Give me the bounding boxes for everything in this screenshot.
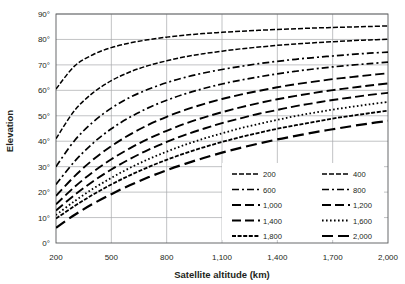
y-tick-label: 60° [38,86,50,95]
x-tick-label: 1,400 [267,253,288,262]
legend-label-800: 800 [353,186,366,195]
y-tick-label: 30° [38,163,50,172]
x-axis-tick-labels: 2005008001,1001,4001,7002,000 [49,253,398,262]
legend-label-2000: 2,000 [353,232,372,241]
y-tick-label: 50° [38,112,50,121]
x-tick-label: 2,000 [378,253,399,262]
y-tick-label: 70° [38,61,50,70]
chart-legend: 2006001,0001,4001,8004008001,2001,6002,0… [222,163,384,241]
y-axis-title: Elevation [4,110,15,152]
x-tick-label: 200 [49,253,63,262]
x-tick-label: 500 [105,253,119,262]
legend-label-1800: 1,800 [263,232,282,241]
chart-canvas: 2005008001,1001,4001,7002,000 0°10°20°30… [0,0,405,284]
x-tick-label: 800 [160,253,174,262]
x-tick-label: 1,100 [212,253,233,262]
legend-label-1200: 1,200 [353,201,372,210]
legend-label-200: 200 [263,170,276,179]
elevation-vs-altitude-chart: 2005008001,1001,4001,7002,000 0°10°20°30… [0,0,405,284]
x-tick-label: 1,700 [323,253,344,262]
legend-label-1000: 1,000 [263,201,282,210]
y-tick-label: 40° [38,137,50,146]
y-tick-label: 20° [38,188,50,197]
y-tick-label: 80° [38,35,50,44]
y-tick-label: 10° [38,214,50,223]
legend-label-400: 400 [353,170,366,179]
legend-label-600: 600 [263,186,276,195]
y-tick-label: 0° [42,239,50,248]
y-tick-label: 90° [38,10,50,19]
y-axis-tick-labels: 0°10°20°30°40°50°60°70°80°90° [38,10,50,248]
legend-label-1400: 1,400 [263,217,282,226]
x-axis-title: Satellite altitude (km) [174,269,270,280]
legend-label-1600: 1,600 [353,217,372,226]
